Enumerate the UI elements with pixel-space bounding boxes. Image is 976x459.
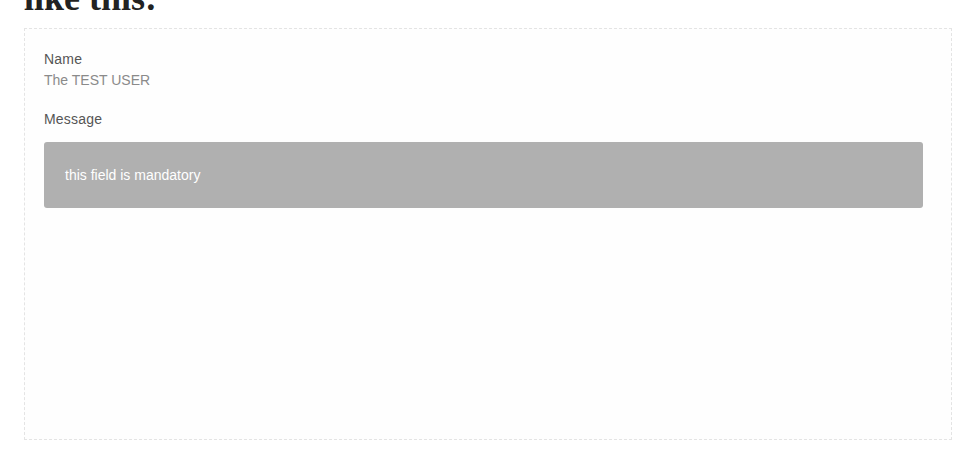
mandatory-notice-text: this field is mandatory xyxy=(65,167,200,183)
mandatory-field-notice: this field is mandatory xyxy=(44,142,923,208)
name-value: The TEST USER xyxy=(44,72,150,88)
form-preview-panel: Name The TEST USER Message this field is… xyxy=(24,28,952,440)
page-heading-fragment: like this: xyxy=(24,0,157,16)
name-label: Name xyxy=(44,51,82,67)
message-label: Message xyxy=(44,111,102,127)
